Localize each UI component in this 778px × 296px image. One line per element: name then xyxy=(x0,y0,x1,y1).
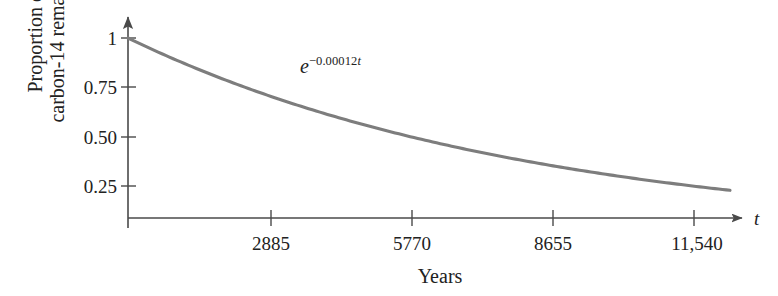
y-tick-label-025: 0.25 xyxy=(50,177,117,196)
equation-exponent-variable: t xyxy=(357,54,361,68)
y-tick-label-075: 0.75 xyxy=(50,78,117,97)
equation-exponent-value: 0.00012 xyxy=(316,54,357,68)
equation-base: e xyxy=(300,55,309,77)
x-axis-variable-label: t xyxy=(754,209,759,228)
curve-equation-annotation: e−0.00012t xyxy=(300,55,361,76)
decay-curve xyxy=(128,38,730,190)
y-tick-label-050: 0.50 xyxy=(50,128,117,147)
equation-exponent-sign: − xyxy=(309,54,316,68)
carbon-14-decay-figure: Proportion of carbon-14 remaining 1 0.75… xyxy=(0,0,778,296)
y-axis-title-line-1: Proportion of xyxy=(23,0,45,93)
y-tick-label-1: 1 xyxy=(62,29,117,48)
x-tick-label-2885: 2885 xyxy=(252,234,290,253)
y-axis-title-line-2: carbon-14 remaining xyxy=(46,0,68,123)
x-axis-title: Years xyxy=(418,266,463,286)
y-axis-title: Proportion of carbon-14 remaining xyxy=(23,0,69,147)
x-tick-label-8655: 8655 xyxy=(534,234,572,253)
equation-exponent: −0.00012t xyxy=(309,54,361,68)
x-tick-label-5770: 5770 xyxy=(393,234,431,253)
x-tick-label-11540: 11,540 xyxy=(671,234,723,253)
